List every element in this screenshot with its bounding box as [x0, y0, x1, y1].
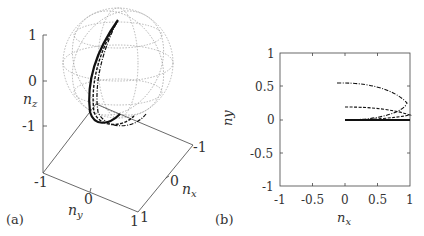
nx-tick-0: 0	[170, 173, 179, 189]
base-plane	[43, 104, 193, 212]
ny-tick-neg1: -1	[34, 174, 48, 190]
nx-tick-0.5: 0.5	[368, 193, 387, 207]
ny-tick-0: 0	[84, 191, 93, 207]
nz-tick-0: 0	[28, 73, 37, 89]
panel-a-label: (a)	[6, 212, 24, 227]
nz-axis-label: nz	[23, 91, 38, 109]
curves-2d	[337, 83, 410, 120]
nx-axis-label: nx	[337, 210, 351, 227]
sphere-plot-svg: 1 0 -1 nz -1 0 1 ny 1 0 -1 nx	[0, 0, 212, 236]
nx-tick-1: 1	[140, 209, 149, 225]
nz-tick-neg1: -1	[22, 118, 36, 134]
projection-plot-svg: 1 0.5 0 -0.5 -1 -1 -0.5 0 0.5 1 nx ny	[212, 0, 424, 236]
ny-axis-label: ny	[68, 202, 83, 220]
ny-tick-neg1: -1	[262, 180, 274, 194]
nx-tick-neg1: -1	[274, 193, 286, 207]
nx-tick-neg0.5: -0.5	[301, 193, 324, 207]
nx-axis-label: nx	[182, 181, 197, 199]
nx-tick-1: 1	[406, 193, 414, 207]
curve-dashdot	[337, 83, 407, 120]
panel-b-2d-plot: 1 0.5 0 -0.5 -1 -1 -0.5 0 0.5 1 nx ny (b…	[212, 0, 424, 236]
panel-b-label: (b)	[215, 212, 233, 227]
ny-axis-label: ny	[220, 110, 235, 126]
nx-tick-0: 0	[341, 193, 349, 207]
z-axis	[43, 35, 47, 173]
ny-tick-0.5: 0.5	[255, 80, 274, 94]
ny-tick-neg0.5: -0.5	[250, 147, 273, 161]
sphere-wireframe	[54, 0, 182, 132]
curve-dashed	[345, 107, 410, 120]
panel-a-3d-plot: 1 0 -1 nz -1 0 1 ny 1 0 -1 nx (a)	[0, 0, 212, 236]
ny-tick-0: 0	[267, 113, 275, 127]
nx-tick-neg1: -1	[193, 139, 207, 155]
ny-tick-1: 1	[130, 213, 139, 229]
ny-tick-1: 1	[267, 47, 275, 61]
nz-tick-1: 1	[28, 27, 37, 43]
